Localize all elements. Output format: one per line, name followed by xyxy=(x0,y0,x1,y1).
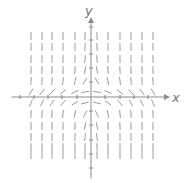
slope-segment xyxy=(96,67,97,74)
slope-segment xyxy=(151,89,155,95)
slope-segment xyxy=(82,91,89,92)
slope-segment xyxy=(140,100,143,106)
slope-segment xyxy=(29,89,33,95)
slope-segment xyxy=(42,78,43,85)
slope-segment xyxy=(152,100,155,106)
slope-segment xyxy=(60,90,66,94)
slope-segment xyxy=(129,100,133,106)
slope-field-figure: y x xyxy=(0,0,189,183)
slope-field-plot xyxy=(0,0,189,183)
slope-segment xyxy=(72,101,78,105)
slope-segment xyxy=(72,91,78,94)
slope-segment xyxy=(74,111,75,118)
slope-segment xyxy=(118,100,123,105)
x-axis-arrow-icon xyxy=(164,94,170,100)
slope-segment xyxy=(120,111,121,118)
slope-segment xyxy=(97,134,98,141)
slope-segment xyxy=(61,100,66,105)
slope-segment xyxy=(85,134,86,141)
slope-segment xyxy=(140,89,144,95)
slope-segment xyxy=(117,90,122,94)
slope-segment xyxy=(94,91,101,92)
slope-segment xyxy=(83,111,86,117)
slope-segment xyxy=(105,91,111,94)
slope-segment xyxy=(63,111,64,118)
slope-segment xyxy=(83,78,87,84)
slope-segment xyxy=(40,89,44,95)
slope-segment xyxy=(96,123,97,130)
slope-segment xyxy=(95,78,99,84)
slope-segment xyxy=(94,102,101,104)
slope-segment xyxy=(30,100,33,106)
slope-segment xyxy=(82,102,89,104)
slope-segment xyxy=(108,67,109,74)
slope-segment xyxy=(97,56,98,63)
slope-segment xyxy=(95,111,98,117)
slope-segment xyxy=(75,67,76,74)
slope-segment xyxy=(120,78,121,85)
slope-segment xyxy=(74,78,76,85)
slope-segment xyxy=(50,89,55,94)
slope-segment xyxy=(84,123,85,130)
slope-segment xyxy=(63,78,64,85)
y-axis-label: y xyxy=(85,4,93,17)
slope-segment xyxy=(52,111,53,118)
slope-segment xyxy=(84,67,85,74)
slope-segment xyxy=(50,100,54,106)
slope-segment xyxy=(107,111,108,118)
slope-segment xyxy=(131,78,132,85)
slope-segment xyxy=(105,101,111,105)
slope-segment xyxy=(131,111,132,118)
slope-segment xyxy=(40,100,43,106)
x-axis-label: x xyxy=(172,91,180,104)
slope-segment xyxy=(85,56,86,63)
slope-segment xyxy=(129,89,134,94)
slope-segment xyxy=(107,78,108,85)
slope-segment xyxy=(52,78,53,85)
